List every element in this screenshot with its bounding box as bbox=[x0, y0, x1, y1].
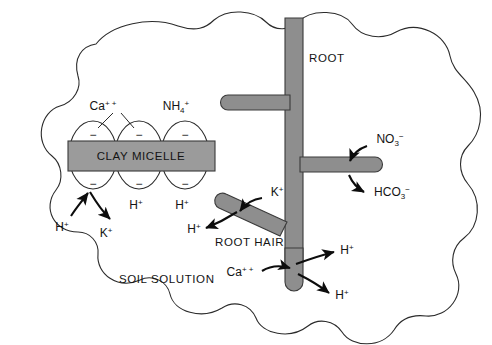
root-label: ROOT bbox=[309, 52, 345, 64]
diagram-canvas: − − − − − − CLAY MICELLE Ca+ + NH4+ H+ bbox=[0, 0, 492, 345]
micelle-charge-5: − bbox=[135, 177, 142, 191]
micelle-charge-1: − bbox=[89, 128, 96, 142]
ion-label-h-into-micelle: H+ bbox=[55, 220, 69, 234]
root-main-axis bbox=[285, 18, 303, 262]
root-hair-label: ROOT HAIR bbox=[215, 236, 284, 248]
clay-micelle-group: − − − − − − CLAY MICELLE bbox=[68, 121, 215, 191]
micelle-charge-4: − bbox=[89, 177, 96, 191]
clay-micelle-label: CLAY MICELLE bbox=[97, 150, 186, 162]
root-tip bbox=[285, 248, 303, 291]
ion-label-bicarbonate: HCO3− bbox=[374, 185, 410, 201]
micelle-charge-3: − bbox=[181, 128, 188, 142]
root-branch-left bbox=[221, 95, 290, 110]
root-branch-right bbox=[300, 157, 383, 172]
soil-root-ion-exchange-diagram: − − − − − − CLAY MICELLE Ca+ + NH4+ H+ bbox=[0, 0, 492, 345]
soil-solution-label: SOIL SOLUTION bbox=[119, 273, 215, 285]
micelle-charge-2: − bbox=[135, 128, 142, 142]
micelle-charge-6: − bbox=[181, 177, 188, 191]
